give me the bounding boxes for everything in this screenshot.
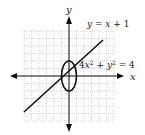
y-axis-arrow-down-icon — [66, 124, 72, 132]
y-axis-label: y — [65, 4, 72, 15]
chart-canvas: y x y = x + 1 4x2 + y2 = 4 — [0, 0, 145, 135]
line-equation-label: y = x + 1 — [86, 19, 129, 29]
x-axis-arrow-right-icon — [117, 73, 124, 79]
x-axis-arrow-left-icon — [10, 73, 17, 79]
y-axis-arrow-up-icon — [66, 16, 72, 24]
ellipse-equation-label: 4x2 + y2 = 4 — [79, 59, 135, 70]
x-axis-label: x — [130, 71, 136, 82]
